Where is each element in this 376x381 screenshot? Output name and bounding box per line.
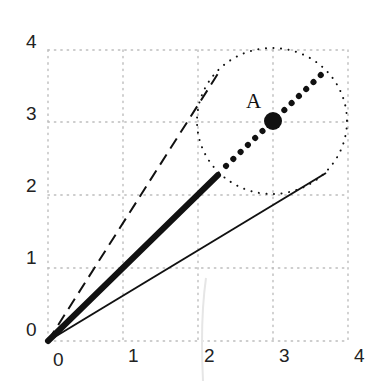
x-tick-0: 0 [53, 349, 64, 370]
y-tick-1: 1 [26, 247, 37, 268]
y-tick-0: 0 [26, 319, 37, 340]
diagram-canvas: 4 3 2 1 0 0 1 2 3 4 A [0, 0, 376, 381]
y-tick-2: 2 [26, 175, 37, 196]
x-tick-4: 4 [354, 345, 365, 366]
x-tick-2: 2 [204, 345, 215, 366]
x-axis-labels: 0 1 2 3 4 [53, 345, 365, 370]
x-tick-3: 3 [279, 345, 290, 366]
point-a-label: A [246, 89, 262, 113]
point-a-marker [264, 112, 282, 130]
dashed-vector [48, 72, 219, 341]
y-tick-3: 3 [26, 103, 37, 124]
x-tick-1: 1 [128, 345, 139, 366]
thin-vector [48, 173, 326, 341]
y-axis-labels: 4 3 2 1 0 [26, 31, 37, 340]
y-tick-4: 4 [26, 31, 37, 52]
thick-vector [48, 175, 218, 341]
